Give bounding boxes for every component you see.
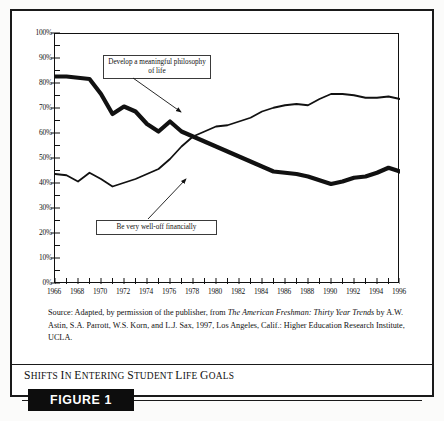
y-axis-tick-label: 40% — [18, 179, 52, 186]
y-axis-tick-label: 100% — [18, 29, 52, 36]
x-axis-tick-label: 1988 — [296, 288, 318, 295]
y-axis-tick-label: 90% — [18, 54, 52, 61]
x-axis-tick-label: 1974 — [135, 288, 157, 295]
x-axis-tick-label: 1992 — [342, 288, 364, 295]
source-note: Source: Adapted, by permission of the pu… — [48, 307, 413, 345]
y-axis-tick-label: 0% — [18, 279, 52, 286]
x-axis-tick-label: 1990 — [319, 288, 341, 295]
y-axis-tick-label: 10% — [18, 254, 52, 261]
callout-philosophy-of-life: Develop a meaningful philosophy of life — [103, 55, 211, 79]
y-axis-tick-label: 80% — [18, 79, 52, 86]
callout-well-off-financially: Be very well-off financially — [96, 220, 217, 235]
caption-divider — [10, 364, 434, 365]
chart-area: 100%90%80%70%60%50%40%30%20%10%0% 196619… — [18, 16, 418, 306]
y-axis-tick-label: 60% — [18, 129, 52, 136]
figure-badge: FIGURE 1 — [28, 389, 134, 411]
figure-container: 100%90%80%70%60%50%40%30%20%10%0% 196619… — [0, 0, 444, 421]
x-axis-tick-label: 1982 — [227, 288, 249, 295]
y-axis-ticks — [48, 30, 60, 286]
y-axis-tick-label: 50% — [18, 154, 52, 161]
y-axis-tick-label: 70% — [18, 104, 52, 111]
y-axis-tick-label: 20% — [18, 229, 52, 236]
x-axis-tick-label: 1972 — [112, 288, 134, 295]
x-axis-tick-label: 1966 — [43, 288, 65, 295]
x-axis-tick-label: 1978 — [181, 288, 203, 295]
source-book-title: The American Freshman: Thirty Year Trend… — [228, 308, 375, 317]
x-axis-tick-label: 1994 — [365, 288, 387, 295]
x-axis-tick-label: 1986 — [273, 288, 295, 295]
x-axis-tick-label: 1970 — [89, 288, 111, 295]
x-axis-tick-label: 1996 — [388, 288, 410, 295]
x-axis-tick-label: 1984 — [250, 288, 272, 295]
y-axis-labels: 100%90%80%70%60%50%40%30%20%10%0% — [18, 16, 52, 306]
figure-caption: SHIFTS IN ENTERING STUDENT LIFE GOALS — [24, 369, 234, 382]
x-axis-tick-label: 1980 — [204, 288, 226, 295]
y-axis-tick-label: 30% — [18, 204, 52, 211]
x-axis-tick-label: 1968 — [66, 288, 88, 295]
x-axis-labels: 1966196819701972197419761978198019821984… — [54, 288, 399, 304]
x-axis-tick-label: 1976 — [158, 288, 180, 295]
